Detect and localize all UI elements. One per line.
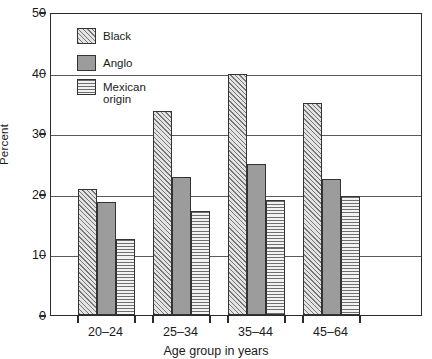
bar <box>153 111 172 315</box>
bar <box>97 202 116 315</box>
bar-chart: Percent 01020304050 Black Anglo Mexican … <box>0 0 432 359</box>
bar <box>172 177 191 315</box>
bar <box>322 179 341 315</box>
legend-swatch-anglo-icon <box>77 55 96 71</box>
x-tick-label: 20–24 <box>88 326 123 339</box>
legend-item-anglo: Anglo <box>77 55 132 71</box>
x-tick-mark <box>284 316 286 323</box>
x-tick-mark <box>227 316 229 323</box>
bar <box>228 74 247 315</box>
bar <box>247 164 266 316</box>
x-tick-label: 45–64 <box>313 326 348 339</box>
x-axis-title: Age group in years <box>0 344 432 358</box>
y-tick-mark <box>39 12 46 14</box>
bar <box>116 239 135 315</box>
y-tick-mark <box>39 315 46 317</box>
x-tick-mark <box>134 316 136 323</box>
bar <box>303 103 322 315</box>
legend-label-anglo: Anglo <box>103 55 132 69</box>
x-tick-mark <box>302 316 304 323</box>
bar <box>78 189 97 315</box>
bar <box>191 211 210 315</box>
bar <box>341 196 360 315</box>
legend-label-mexican-origin: Mexican origin <box>103 79 146 105</box>
y-axis: Percent 01020304050 <box>0 13 46 316</box>
bar <box>266 200 285 315</box>
x-tick-mark <box>359 316 361 323</box>
y-tick-mark <box>39 194 46 196</box>
x-tick-label: 35–44 <box>238 326 273 339</box>
x-tick-mark <box>152 316 154 323</box>
legend-swatch-mexican-origin-icon <box>77 79 96 95</box>
legend-label-black: Black <box>103 28 131 42</box>
legend-swatch-black-icon <box>77 28 96 44</box>
x-tick-mark <box>77 316 79 323</box>
legend-item-black: Black <box>77 28 131 44</box>
y-tick-mark <box>39 73 46 75</box>
y-tick-mark <box>39 255 46 257</box>
legend-item-mexican-origin: Mexican origin <box>77 79 146 105</box>
x-tick-label: 25–34 <box>163 326 198 339</box>
x-tick-mark <box>209 316 211 323</box>
y-tick-mark <box>39 133 46 135</box>
